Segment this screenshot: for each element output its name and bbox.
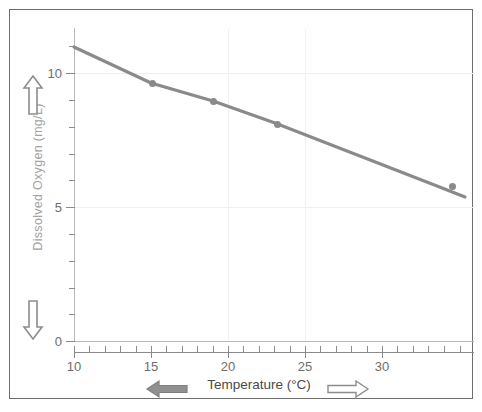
chart-screenshot: 10 5 0 10 15 20 25 30 bbox=[0, 0, 482, 412]
chart-frame bbox=[9, 9, 473, 399]
